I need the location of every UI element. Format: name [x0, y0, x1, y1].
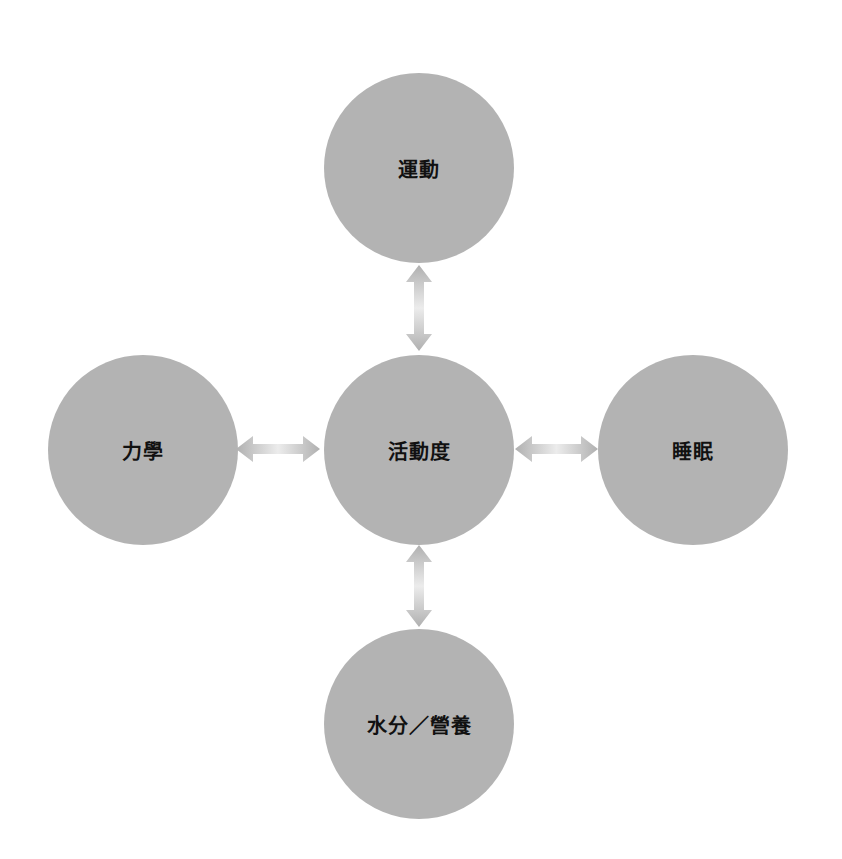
- arrow-center-top: [406, 265, 432, 351]
- node-label-activity: 活動度: [388, 436, 451, 465]
- node-exercise: 運動: [324, 73, 514, 263]
- arrow-center-right: [515, 436, 598, 462]
- node-mechanics: 力學: [48, 355, 238, 545]
- node-label-exercise: 運動: [398, 154, 440, 183]
- arrow-center-bottom: [406, 545, 432, 627]
- node-sleep: 睡眠: [598, 355, 788, 545]
- node-label-hydration-nutrition: 水分／營養: [367, 710, 472, 739]
- arrow-center-left: [236, 436, 320, 462]
- activity-diagram: 運動 力學 活動度 睡眠 水分／營養: [0, 0, 842, 859]
- node-label-sleep: 睡眠: [672, 436, 714, 465]
- node-activity-center: 活動度: [324, 355, 514, 545]
- node-label-mechanics: 力學: [122, 436, 164, 465]
- node-hydration-nutrition: 水分／營養: [324, 629, 514, 819]
